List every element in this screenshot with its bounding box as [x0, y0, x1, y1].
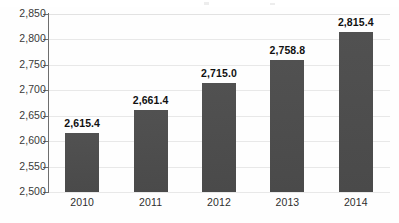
y-tick-label: 2,750 — [2, 59, 46, 69]
y-tick-label: 2,700 — [2, 84, 46, 94]
bar[interactable] — [202, 83, 236, 192]
bar-value-label: 2,661.4 — [133, 95, 169, 106]
bar-slot: 2,661.4 — [116, 14, 184, 192]
x-axis-labels: 20102011201220132014 — [48, 196, 390, 216]
bar-value-label: 2,758.8 — [270, 45, 306, 56]
bar[interactable] — [134, 110, 168, 192]
bar-slot: 2,615.4 — [48, 14, 116, 192]
bar[interactable] — [270, 60, 304, 192]
y-tick-label: 2,650 — [2, 110, 46, 120]
x-tick-label: 2014 — [344, 196, 368, 208]
bar-value-label: 2,815.4 — [338, 17, 374, 28]
x-tick-label: 2013 — [276, 196, 300, 208]
bar-value-label: 2,615.4 — [64, 118, 100, 129]
bar[interactable] — [65, 133, 99, 192]
x-tick-label: 2012 — [207, 196, 231, 208]
y-tick-label: 2,500 — [2, 186, 46, 196]
scan-artifact — [0, 0, 399, 7]
x-tick-label: 2011 — [139, 196, 162, 208]
bar-slot: 2,815.4 — [322, 14, 390, 192]
gridline — [48, 192, 390, 193]
bar-slot: 2,715.0 — [185, 14, 253, 192]
y-tick-label: 2,550 — [2, 161, 46, 171]
y-tick-label: 2,600 — [2, 135, 46, 145]
bar-series: 2,615.42,661.42,715.02,758.82,815.4 — [48, 14, 390, 192]
bar[interactable] — [339, 32, 373, 192]
bar-value-label: 2,715.0 — [201, 68, 237, 79]
y-tick-label: 2,850 — [2, 8, 46, 18]
y-tick-label: 2,800 — [2, 33, 46, 43]
x-tick-label: 2010 — [70, 196, 94, 208]
bar-chart: 2,8502,8002,7502,7002,6502,6002,5502,500… — [0, 0, 399, 223]
bar-slot: 2,758.8 — [253, 14, 321, 192]
